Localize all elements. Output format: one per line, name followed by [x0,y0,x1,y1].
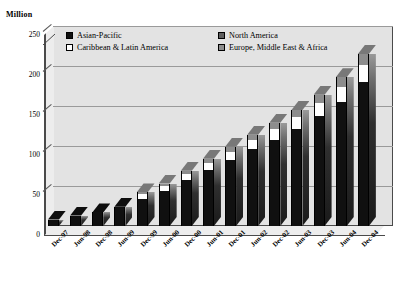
legend-label: Europe, Middle East & Africa [229,43,327,52]
bar-side-face [236,147,243,226]
bar-segment [70,216,81,226]
corner-edge-icon [43,34,56,45]
bar-column [247,135,258,226]
bar-segment [358,54,369,65]
bar-segment [269,129,280,139]
bar-segment [203,170,214,226]
bar-segment [336,102,347,226]
bar-segment [48,220,59,226]
y-axis-tick-label: 250 [29,30,40,39]
chart-legend: Asian-Pacific North America Caribbean & … [66,30,324,54]
bar-side-face [325,95,332,226]
bar-side-face [192,171,199,226]
bar-column [70,216,81,226]
legend-item-north-america: North America [218,30,278,41]
bar-column [358,54,369,226]
stacked-column-chart: Million 050100150200250 Dec-97Jun-98Dec-… [0,0,409,297]
bar-segment [247,149,258,226]
legend-item-europe-middle-east-africa: Europe, Middle East & Africa [218,42,327,53]
bar-segment [291,110,302,117]
y-axis-tick-label: 150 [29,110,40,119]
bar-column [314,95,325,226]
gridline [53,66,393,67]
legend-label: North America [229,31,278,40]
bar-segment [291,129,302,226]
bar-segment [314,116,325,226]
left-wall [44,26,54,236]
bar-segment [336,77,347,87]
bar-side-face [214,159,221,226]
legend-swatch-icon [218,32,225,39]
legend-swatch-icon [218,44,225,51]
y-axis-tick-label: 200 [29,70,40,79]
legend-item-asian-pacific: Asian-Pacific [66,30,122,41]
bar-segment [159,191,170,226]
legend-item-caribbean-latin-america: Caribbean & Latin America [66,42,168,53]
y-axis-title: Million [6,10,32,19]
bar-segment [358,65,369,82]
bar-segment [137,199,148,226]
bar-segment [269,140,280,226]
bar-column [114,207,125,226]
bar-segment [92,212,103,226]
bar-segment [225,160,236,226]
bar-segment [336,87,347,102]
y-axis-tick-label: 100 [29,150,40,159]
legend-swatch-icon [66,32,73,39]
bar-side-face [369,54,376,226]
bar-segment [314,95,325,103]
legend-swatch-icon [66,44,73,51]
y-axis-tick-label: 50 [33,190,41,199]
bar-segment [114,207,125,226]
bar-segment [203,163,214,170]
bar-segment [358,82,369,226]
bar-column [137,192,148,226]
bar-side-face [280,123,287,226]
bar-segment [314,103,325,117]
plot-area [44,26,393,235]
bar-column [269,123,280,226]
bar-side-face [258,135,265,226]
bar-column [203,159,214,226]
bar-side-face [347,77,354,226]
bar-column [225,147,236,226]
y-axis-tick-label: 0 [36,230,40,239]
bar-side-face [302,110,309,226]
bar-segment [225,152,236,160]
legend-label: Caribbean & Latin America [77,43,168,52]
bar-column [181,171,192,226]
bar-column [48,220,59,226]
legend-label: Asian-Pacific [77,31,122,40]
bar-segment [181,180,192,226]
bar-column [159,184,170,226]
bar-column [291,110,302,226]
bar-column [92,212,103,226]
bar-segment [291,117,302,129]
gridline [53,26,393,27]
bar-segment [247,140,258,149]
bar-column [336,77,347,226]
